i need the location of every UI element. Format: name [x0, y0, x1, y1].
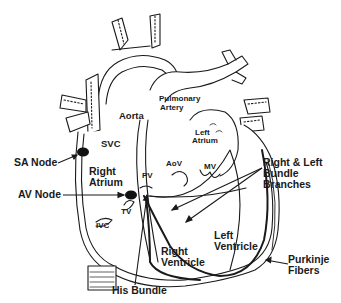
av-node-marker [125, 191, 137, 200]
label-mv: MV [204, 163, 216, 171]
label-tv: TV [121, 208, 131, 216]
label-his-bundle: His Bundle [112, 285, 167, 296]
label-aov: AoV [166, 160, 182, 168]
sa-node-marker [77, 148, 89, 157]
heart-conduction-diagram: Aorta Pulmonary Artery Left Atrium SVC S… [0, 0, 341, 303]
label-sa-node: SA Node [14, 157, 57, 168]
label-bundle-branches-3: Branches [263, 179, 311, 190]
label-right-atrium-2: Atrium [89, 177, 123, 188]
label-left-ventricle-2: Ventricle [214, 241, 258, 252]
label-purkinje-2: Fibers [288, 265, 320, 276]
label-pv: PV [142, 172, 153, 180]
label-av-node: AV Node [18, 189, 61, 200]
label-right-ventricle-2: Ventricle [161, 257, 205, 268]
label-left-atrium-2: Atrium [192, 137, 218, 145]
label-pulmonary-artery-2: Artery [160, 104, 184, 112]
label-svc: SVC [101, 139, 121, 149]
label-aorta: Aorta [119, 111, 144, 121]
aortic-branches [112, 14, 160, 50]
label-ivc: IVC [96, 222, 109, 230]
